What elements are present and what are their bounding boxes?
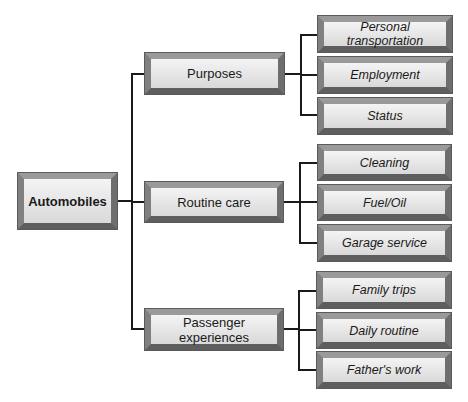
node-fuel-oil: Fuel/Oil: [318, 185, 451, 220]
connector-to-purposes: [131, 73, 145, 75]
node-label: Status: [367, 109, 402, 123]
node-label: Father's work: [347, 363, 422, 377]
node-label: Garage service: [342, 236, 427, 250]
connector-to-personal-transportation: [300, 34, 318, 36]
node-purposes: Purposes: [145, 53, 284, 94]
connector-to-garage-service: [299, 242, 318, 244]
node-label: Purposes: [187, 66, 242, 81]
connector-to-passenger-experiences: [131, 328, 145, 330]
connector-to-family-trips: [298, 290, 318, 292]
node-label: Daily routine: [349, 324, 418, 338]
node-label: Personal transportation: [324, 20, 446, 48]
node-fathers-work: Father's work: [317, 352, 451, 388]
node-label: Routine care: [177, 195, 251, 210]
node-employment: Employment: [318, 57, 452, 93]
connector-to-fathers-work: [298, 369, 318, 371]
node-personal-transportation: Personal transportation: [318, 16, 452, 52]
connector-to-daily-routine: [298, 329, 318, 331]
node-cleaning: Cleaning: [318, 145, 451, 180]
node-label: Fuel/Oil: [363, 196, 406, 210]
node-status: Status: [318, 98, 452, 134]
node-daily-routine: Daily routine: [317, 313, 451, 348]
node-automobiles: Automobiles: [18, 173, 117, 229]
node-garage-service: Garage service: [318, 225, 451, 261]
node-passenger-experiences: Passenger experiences: [145, 309, 283, 350]
node-family-trips: Family trips: [317, 272, 451, 308]
connector-to-cleaning: [299, 162, 318, 164]
node-label: Passenger experiences: [151, 315, 277, 345]
node-label: Employment: [350, 68, 419, 82]
node-label: Cleaning: [360, 156, 409, 170]
connector-to-employment: [300, 74, 318, 76]
connector-purposes-out: [284, 73, 301, 75]
node-routine-care: Routine care: [145, 182, 283, 222]
connector-to-routine-care: [131, 201, 145, 203]
connector-to-status: [300, 114, 318, 116]
connector-to-fuel-oil: [299, 201, 318, 203]
node-label: Automobiles: [28, 194, 107, 209]
node-label: Family trips: [352, 283, 416, 297]
